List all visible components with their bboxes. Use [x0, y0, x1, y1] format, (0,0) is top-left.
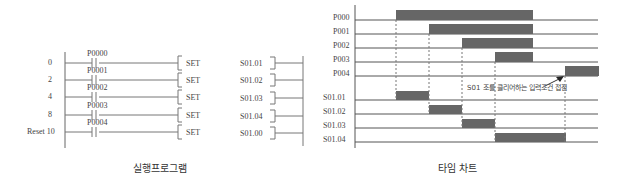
ladder-caption: 실행프로그램	[133, 160, 187, 175]
coil-label: SET	[186, 93, 200, 102]
signal-label: P004	[333, 69, 349, 78]
operand-label: S01.00	[240, 129, 262, 138]
contact-label: P0004	[87, 118, 107, 127]
contact-label: P0001	[87, 66, 107, 75]
signal-label: S01.04	[323, 135, 345, 144]
coil-label: SET	[186, 76, 200, 85]
contact-label: P0000	[87, 49, 107, 58]
coil-label: SET	[186, 59, 200, 68]
annotation-text: S01 조를 클리어하는 입력조건 접점	[467, 82, 567, 92]
signal-label: P002	[333, 41, 349, 50]
signal-label: P000	[333, 13, 349, 22]
operand-label: S01.01	[240, 59, 262, 68]
step-number: 4	[48, 92, 52, 101]
signal-label: P001	[333, 27, 349, 36]
signal-label: S01.03	[323, 121, 345, 130]
signal-label: S01.02	[323, 107, 345, 116]
signal-label: S01.01	[323, 93, 345, 102]
step-number: 8	[48, 110, 52, 119]
step-number: 2	[48, 75, 52, 84]
timing-caption: 타임 차트	[438, 160, 477, 175]
timing-chart-graphics	[355, 5, 599, 148]
coil-label: SET	[186, 111, 200, 120]
operand-label: S01.03	[240, 94, 262, 103]
signal-label: P003	[333, 55, 349, 64]
step-number: Reset 10	[27, 127, 55, 136]
contact-label: P0003	[87, 101, 107, 110]
contact-label: P0002	[87, 83, 107, 92]
operand-label: S01.02	[240, 76, 262, 85]
step-number: 0	[48, 58, 52, 67]
coil-label: SET	[186, 128, 200, 137]
operand-label: S01.04	[240, 112, 262, 121]
